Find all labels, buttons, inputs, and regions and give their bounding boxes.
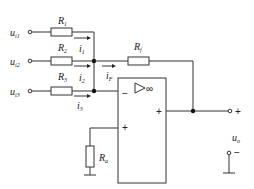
label-r2: R2 <box>57 42 67 54</box>
label-rf: Rf <box>133 41 143 53</box>
infinity-symbol: ∞ <box>146 83 153 94</box>
inverting-input-sign: − <box>122 88 128 99</box>
label-if: iF <box>106 70 113 82</box>
noninverting-input-sign: + <box>122 122 128 133</box>
output-sign: + <box>156 106 162 117</box>
label-i3: i3 <box>77 100 83 112</box>
output-minus-sign: − <box>234 147 240 158</box>
ra-branch: Ra <box>84 128 118 175</box>
label-ui3: ui3 <box>10 86 20 98</box>
resistor-ra <box>86 146 94 167</box>
label-i1: i1 <box>79 43 85 55</box>
resistor-r3 <box>51 87 72 95</box>
label-r1: R1 <box>57 15 67 27</box>
label-r3: R3 <box>57 71 67 83</box>
label-ui2: ui2 <box>10 56 20 68</box>
terminal-output-minus <box>227 151 231 155</box>
label-ui1: ui1 <box>10 27 20 39</box>
label-uo: uo <box>232 132 240 144</box>
junction-node-2 <box>92 89 96 93</box>
resistor-r2 <box>51 57 72 65</box>
label-i2: i2 <box>79 72 85 84</box>
output-plus-sign: + <box>235 106 241 117</box>
terminal-ui3 <box>28 89 32 93</box>
terminal-ui2 <box>28 59 32 63</box>
resistor-rf <box>128 57 149 65</box>
terminal-output-plus <box>228 109 232 113</box>
circuit-diagram: ui1 R1 i1 ui2 R2 i2 ui3 R3 i3 <box>0 0 254 189</box>
terminal-ui1 <box>28 30 32 34</box>
input-ui3: ui3 R3 i3 <box>10 71 118 112</box>
resistor-r1 <box>51 28 72 36</box>
junction-node-output <box>191 109 195 113</box>
label-ra: Ra <box>98 152 108 164</box>
opamp: ∞ − + + <box>118 78 166 183</box>
